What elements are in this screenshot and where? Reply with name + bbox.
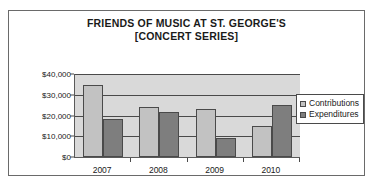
- legend-label: Contributions: [309, 98, 359, 109]
- y-axis-tick-label: $0: [11, 153, 71, 162]
- y-axis-tick-label: $20,000: [11, 111, 71, 120]
- chart-title-line-2: [CONCERT SERIES]: [9, 30, 364, 43]
- chart-title-line-1: FRIENDS OF MUSIC AT ST. GEORGE'S: [9, 17, 364, 30]
- x-axis-category-label: 2009: [185, 165, 245, 175]
- bar-2008-contributions: [139, 107, 159, 157]
- bar-2009-expenditures: [216, 138, 236, 157]
- bar-2009-contributions: [196, 109, 216, 157]
- bar-2010-expenditures: [272, 105, 292, 157]
- bar-2007-contributions: [83, 85, 103, 157]
- plot-area: [74, 74, 300, 158]
- bar-2010-contributions: [252, 126, 272, 157]
- legend-item-expenditures[interactable]: Expenditures: [300, 109, 359, 120]
- y-axis-tick-label: $40,000: [11, 70, 71, 79]
- legend-item-contributions[interactable]: Contributions: [300, 98, 359, 109]
- chart-title: FRIENDS OF MUSIC AT ST. GEORGE'S [CONCER…: [9, 17, 364, 43]
- y-axis-tick-label: $30,000: [11, 90, 71, 99]
- bar-2007-expenditures: [103, 119, 123, 157]
- bar-2008-expenditures: [159, 112, 179, 157]
- legend-swatch-icon: [300, 112, 306, 118]
- x-axis-category-label: 2007: [72, 165, 132, 175]
- bar-groups: [75, 74, 300, 157]
- chart-legend: ContributionsExpenditures: [296, 94, 364, 124]
- chart-frame: FRIENDS OF MUSIC AT ST. GEORGE'S [CONCER…: [8, 10, 365, 176]
- y-axis-tick-label: $10,000: [11, 132, 71, 141]
- legend-swatch-icon: [300, 101, 306, 107]
- x-axis-category-label: 2008: [128, 165, 188, 175]
- x-axis-category-label: 2010: [241, 165, 301, 175]
- legend-label: Expenditures: [309, 109, 359, 120]
